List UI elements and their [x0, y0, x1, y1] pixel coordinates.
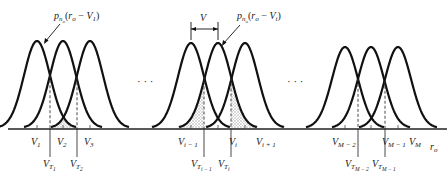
density-curve: [206, 43, 284, 127]
ellipsis-left: · · ·: [137, 75, 154, 87]
signal-label: V3: [84, 136, 94, 149]
gaussian-threshold-diagram: · · · · · · pno(ro − V1) pno(ro − Vi) V …: [0, 0, 447, 181]
signal-label: V2: [57, 136, 67, 149]
curve-label-middle: pno(ro − Vi): [222, 10, 281, 46]
curve-label-first: pno(ro − V1): [44, 10, 99, 44]
axis-labels: V1V2V3VT1VT2Vi − 1ViVi + 1VTi − 1VTiVM −…: [31, 136, 422, 172]
error-region-shading: [50, 76, 258, 129]
density-curves: [0, 41, 437, 127]
threshold-label: VTM − 1: [372, 158, 396, 172]
threshold-label: VT2: [70, 158, 83, 172]
signal-label: Vi − 1: [178, 136, 198, 149]
svg-text:pno(ro − V1): pno(ro − V1): [53, 10, 99, 24]
threshold-label: VTi − 1: [191, 158, 212, 172]
density-curve: [179, 43, 257, 127]
signal-label: VM: [409, 136, 422, 149]
spacing-indicator: V: [191, 12, 218, 40]
density-curve: [152, 43, 230, 127]
threshold-label: VTi: [218, 158, 230, 172]
svg-text:pno(ro − Vi): pno(ro − Vi): [236, 10, 281, 24]
signal-label: VM − 1: [382, 136, 406, 149]
axis-label-ro: ro: [430, 141, 438, 154]
svg-text:V: V: [200, 12, 208, 23]
ellipsis-right: · · ·: [287, 75, 304, 87]
signal-label: V1: [31, 136, 41, 149]
threshold-label: VTM − 2: [345, 158, 369, 172]
threshold-label: VT1: [43, 158, 56, 172]
signal-label: Vi + 1: [256, 136, 276, 149]
signal-label: VM − 2: [332, 136, 356, 149]
signal-label: Vi: [229, 136, 237, 149]
